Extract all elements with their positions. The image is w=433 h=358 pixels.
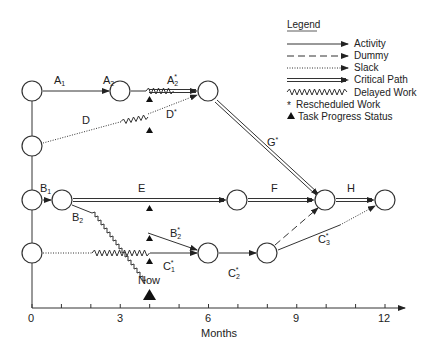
- legend-task-progress-status: Task Progress Status: [287, 111, 392, 122]
- legend-dummy: Dummy: [287, 50, 388, 61]
- svg-text:E: E: [138, 182, 145, 194]
- legend-title: Legend: [287, 19, 320, 30]
- svg-text:B2*: B2*: [170, 226, 181, 240]
- label-c2-star: C2*: [228, 266, 240, 280]
- label-d: D: [82, 114, 90, 126]
- svg-text:Critical Path: Critical Path: [354, 74, 408, 85]
- node: [375, 190, 395, 210]
- label-e: E: [138, 182, 145, 194]
- svg-text:A1: A1: [54, 74, 65, 87]
- svg-text:C3*: C3*: [318, 232, 330, 246]
- svg-text:Rescheduled Work: Rescheduled Work: [296, 99, 381, 110]
- label-b2-star: B2*: [170, 226, 181, 240]
- now-label: Now: [138, 274, 160, 286]
- label-f: F: [271, 182, 278, 194]
- node: [22, 81, 42, 101]
- label-a2-star: A2*: [167, 73, 178, 87]
- edge-d-delayed: [121, 115, 148, 124]
- node: [52, 190, 72, 210]
- label-d-star: D*: [166, 108, 177, 120]
- tick-label-9: 9: [293, 312, 299, 324]
- label-h: H: [347, 182, 355, 194]
- now-triangle-icon: [143, 289, 156, 300]
- node: [22, 190, 42, 210]
- edge-c3-star: [278, 225, 340, 250]
- node: [257, 243, 277, 263]
- svg-text:Task Progress Status: Task Progress Status: [298, 111, 392, 122]
- legend-critical-path: Critical Path: [287, 74, 408, 85]
- label-b1: B1: [40, 182, 51, 195]
- triangle-icon: [146, 127, 153, 133]
- svg-text:B2: B2: [72, 211, 83, 224]
- svg-text:A2*: A2*: [167, 73, 178, 87]
- node: [227, 190, 247, 210]
- tick-label-12: 12: [378, 312, 390, 324]
- node: [198, 81, 218, 101]
- label-c3-star: C3*: [318, 232, 330, 246]
- tick-label-0: 0: [28, 312, 34, 324]
- svg-text:F: F: [271, 182, 278, 194]
- node: [22, 136, 42, 156]
- triangle-icon: [146, 235, 153, 241]
- svg-text:C2*: C2*: [228, 266, 240, 280]
- node: [198, 243, 218, 263]
- edge-dummy: [275, 208, 318, 245]
- time-axis: 0 3 6 9 12 Months: [28, 304, 405, 339]
- legend-rescheduled-work: * Rescheduled Work: [287, 99, 381, 111]
- triangle-icon: [287, 112, 295, 119]
- axis-title: Months: [201, 327, 238, 339]
- svg-text:D*: D*: [166, 108, 177, 120]
- legend-activity: Activity: [287, 38, 386, 49]
- svg-text:Activity: Activity: [354, 38, 386, 49]
- label-c1-star: C1*: [163, 259, 175, 273]
- svg-text:D: D: [82, 114, 90, 126]
- label-g-star: G*: [267, 136, 279, 148]
- tick-label-6: 6: [205, 312, 211, 324]
- network-diagram: Legend Activity Dummy Slack Critical Pat…: [0, 0, 433, 358]
- label-b2: B2: [72, 211, 83, 224]
- svg-text:Dummy: Dummy: [354, 50, 388, 61]
- svg-text:H: H: [347, 182, 355, 194]
- triangle-icon: [146, 258, 153, 264]
- svg-text:Delayed Work: Delayed Work: [354, 87, 418, 98]
- svg-text:C1*: C1*: [163, 259, 175, 273]
- tick-label-3: 3: [117, 312, 123, 324]
- svg-text:G*: G*: [267, 136, 279, 148]
- triangle-icon: [146, 96, 153, 102]
- label-a1: A1: [54, 74, 65, 87]
- label-a2: A2: [103, 74, 114, 87]
- edge-c1-delayed: [92, 250, 150, 256]
- legend-delayed-work: Delayed Work: [287, 87, 418, 98]
- svg-text:Slack: Slack: [354, 62, 379, 73]
- node: [315, 190, 335, 210]
- edge-a2-delayed: [146, 88, 174, 94]
- svg-text:*: *: [287, 100, 291, 111]
- svg-text:B1: B1: [40, 182, 51, 195]
- svg-text:A2: A2: [103, 74, 114, 87]
- edge-b2-delayed: [92, 212, 146, 281]
- legend: Legend Activity Dummy Slack Critical Pat…: [287, 19, 418, 122]
- triangle-icon: [146, 205, 153, 211]
- node: [22, 243, 42, 263]
- legend-slack: Slack: [287, 62, 379, 73]
